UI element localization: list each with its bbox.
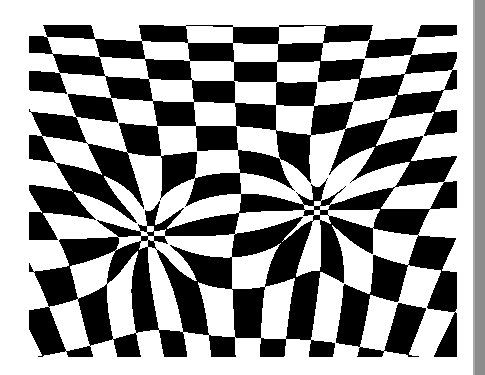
page-edge-shade bbox=[473, 0, 475, 375]
checkerboard-illusion-image bbox=[29, 25, 457, 357]
warped-checkerboard bbox=[29, 25, 457, 357]
